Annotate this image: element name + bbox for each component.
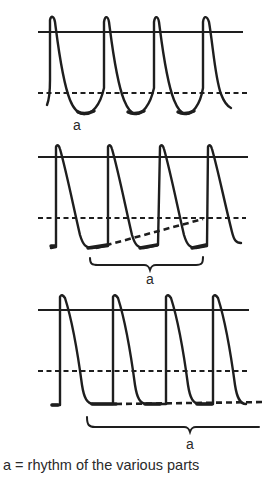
panel-1	[38, 17, 248, 114]
panel-3-waveform	[52, 295, 246, 405]
panel-2-label: a	[146, 272, 154, 286]
panel-3-label: a	[186, 437, 194, 451]
panel-2	[38, 145, 248, 270]
panel-1-trough-thickening	[78, 111, 194, 113]
rhythm-diagram	[0, 0, 269, 483]
panel-2-waveform	[51, 145, 241, 248]
panel-1-label: a	[73, 118, 81, 132]
panel-3	[38, 295, 266, 432]
panel-2-baseline-thickening	[51, 245, 206, 248]
caption: a = rhythm of the various parts	[3, 457, 199, 473]
panel-3-brace	[87, 417, 259, 432]
panel-2-brace	[90, 257, 203, 270]
